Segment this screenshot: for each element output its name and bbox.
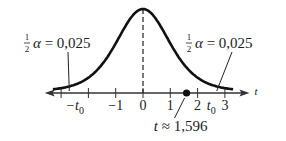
annotation-leader: [68, 52, 69, 91]
t-distribution-chart: t−t0−1012t03t ≈ 1,59612α = 0,02512α = 0,…: [0, 0, 286, 141]
annotation-fraction-denominator: 2: [25, 44, 30, 54]
tick-label: t0: [207, 98, 216, 116]
tick-label: 1: [167, 98, 174, 113]
critical-point-label: t ≈ 1,596: [154, 118, 208, 134]
annotation-fraction-denominator: 2: [187, 44, 192, 54]
tick-label: 2: [194, 98, 201, 113]
critical-point-marker: [183, 89, 190, 96]
x-axis-label: t: [254, 85, 258, 97]
tick-label: 0: [140, 98, 147, 113]
annotation-alpha-label: α = 0,025: [195, 35, 253, 51]
annotation-alpha-label: α = 0,025: [33, 35, 91, 51]
annotation-fraction-numerator: 1: [187, 32, 192, 42]
tick-label: −1: [108, 98, 123, 113]
annotation-leader: [217, 52, 232, 91]
tick-label: 3: [221, 98, 228, 113]
tick-label: −t0: [66, 98, 84, 116]
critical-point-leader: [175, 98, 185, 118]
annotation-fraction-numerator: 1: [25, 32, 30, 42]
